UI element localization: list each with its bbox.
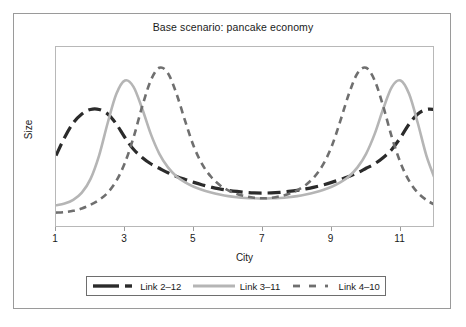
x-tick-mark-0 [55,227,56,231]
x-tick-mark-3 [262,227,263,231]
x-tick-label-2: 5 [181,233,205,244]
chart-legend: Link 2–12 Link 3–11 Link 4–10 [86,276,386,296]
x-tick-mark-5 [400,227,401,231]
x-tick-label-3: 7 [250,233,274,244]
x-tick-mark-4 [331,227,332,231]
plot-area [55,46,434,227]
plot-curves [56,47,434,227]
x-tick-label-1: 3 [112,233,136,244]
legend-label-1: Link 3–11 [240,281,281,292]
series-line-0 [56,109,434,193]
x-tick-mark-2 [193,227,194,231]
chart-title: Base scenario: pancake economy [0,21,466,33]
chart-figure: Base scenario: pancake economy Size 1357… [0,0,466,327]
legend-item-2[interactable]: Link 4–10 [291,281,380,292]
x-tick-label-0: 1 [43,233,67,244]
x-tick-label-4: 9 [319,233,343,244]
y-axis-title: Size [23,100,34,160]
legend-swatch-link-3-11 [192,281,236,291]
legend-label-0: Link 2–12 [140,281,181,292]
x-tick-mark-1 [124,227,125,231]
series-line-2 [56,67,434,212]
legend-swatch-link-2-12 [92,281,136,291]
legend-label-2: Link 4–10 [339,281,380,292]
legend-swatch-link-4-10 [291,281,335,291]
x-axis-title: City [55,252,434,263]
x-tick-label-5: 11 [388,233,412,244]
legend-item-0[interactable]: Link 2–12 [92,281,181,292]
legend-item-1[interactable]: Link 3–11 [192,281,281,292]
